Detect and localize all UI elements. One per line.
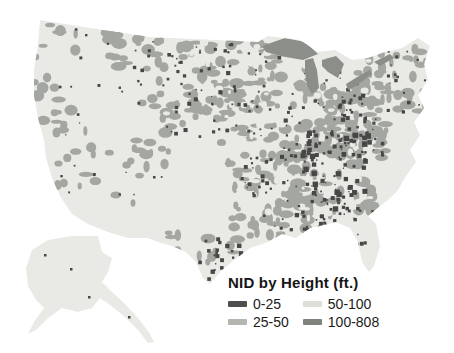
legend-label-50-100: 50-100: [328, 295, 372, 313]
swatch-50-100: [303, 301, 322, 307]
legend-label-100-808: 100-808: [328, 313, 379, 331]
swatch-100-808: [303, 319, 322, 325]
legend-label-0-25: 0-25: [253, 295, 281, 313]
legend: NID by Height (ft.) 0-25 25-50 50-100 10…: [224, 274, 384, 331]
swatch-25-50: [228, 319, 247, 325]
legend-title: NID by Height (ft.): [228, 274, 384, 291]
alaska-outline: [26, 236, 154, 343]
legend-grid: 0-25 25-50 50-100 100-808: [228, 295, 384, 331]
legend-item-100-808: 100-808: [303, 313, 379, 331]
nid-dam-height-map-figure: NID by Height (ft.) 0-25 25-50 50-100 10…: [0, 0, 454, 353]
legend-item-0-25: 0-25: [228, 295, 289, 313]
legend-item-50-100: 50-100: [303, 295, 379, 313]
swatch-0-25: [228, 301, 247, 307]
legend-item-25-50: 25-50: [228, 313, 289, 331]
legend-label-25-50: 25-50: [253, 313, 289, 331]
